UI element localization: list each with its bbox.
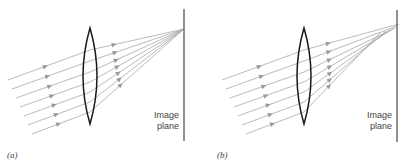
arrowhead-icon: [258, 75, 264, 80]
converging-lens: [297, 28, 311, 124]
incident-ray: [238, 92, 304, 116]
incident-ray: [12, 61, 90, 89]
image-plane-label-line2: plane: [157, 121, 179, 131]
refracted-ray: [304, 30, 390, 92]
incident-ray: [230, 72, 304, 98]
refracted-ray: [90, 29, 184, 92]
incident-ray: [242, 102, 304, 125]
arrowhead-icon: [47, 85, 53, 90]
incident-ray: [234, 82, 304, 107]
refracted-ray: [90, 29, 184, 112]
lens-diagram: Image plane (a) Image plane (b): [0, 0, 404, 162]
arrowhead-icon: [263, 94, 269, 99]
arrowhead-icon: [44, 75, 50, 80]
incident-ray: [20, 82, 90, 107]
arrowhead-icon: [53, 113, 59, 118]
arrowhead-icon: [49, 94, 55, 99]
panel-b: Image plane (b): [217, 10, 399, 160]
arrowhead-icon: [256, 65, 262, 70]
arrowhead-icon: [327, 72, 333, 77]
refracted-ray: [90, 29, 184, 61]
incident-ray: [16, 72, 90, 98]
arrowhead-icon: [265, 104, 271, 109]
arrowhead-icon: [51, 104, 57, 109]
panel-label: (b): [217, 150, 228, 160]
image-plane-label-line1: Image: [367, 110, 392, 120]
arrowhead-icon: [112, 51, 118, 56]
arrowhead-icon: [325, 42, 331, 47]
arrowhead-icon: [261, 85, 267, 90]
image-plane-label-line2: plane: [370, 121, 392, 131]
arrowhead-icon: [327, 65, 333, 70]
incident-ray: [24, 92, 90, 116]
incident-ray: [28, 102, 90, 125]
panel-label: (a): [7, 150, 18, 160]
refracted-ray: [304, 24, 399, 50]
incident-ray: [226, 61, 304, 89]
arrowhead-icon: [111, 43, 117, 48]
refracted-ray: [304, 26, 397, 61]
image-plane-label-line1: Image: [154, 110, 179, 120]
refracted-ray: [90, 29, 184, 82]
refracted-ray: [304, 31, 386, 102]
arrowhead-icon: [115, 71, 121, 76]
arrowhead-icon: [326, 50, 332, 54]
arrowhead-icon: [267, 113, 273, 118]
panel-a: Image plane (a): [7, 9, 184, 160]
arrowhead-icon: [42, 65, 48, 70]
converging-lens: [83, 28, 97, 124]
arrowhead-icon: [116, 77, 122, 82]
refracted-ray: [304, 32, 381, 112]
